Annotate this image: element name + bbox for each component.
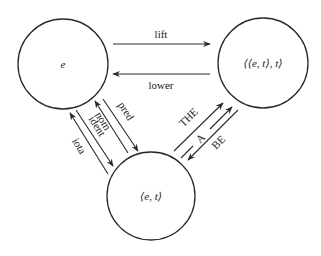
arrow-up-right-icon (210, 107, 232, 129)
node-e: e (18, 19, 108, 109)
node-e-label: e (61, 58, 66, 70)
node-gq-label: ⟨⟨e, t⟩, t⟩ (243, 57, 282, 69)
node-et: ⟨e, t⟩ (107, 152, 195, 240)
edge-pred-label: pred (116, 99, 137, 122)
edge-lift: lift (113, 28, 210, 44)
edge-lower-label: lower (148, 79, 173, 91)
node-generalized-quantifier: ⟨⟨e, t⟩, t⟩ (218, 18, 308, 108)
node-et-label: ⟨e, t⟩ (140, 190, 162, 202)
edge-the-label: THE (176, 105, 200, 129)
type-shifting-diagram: e ⟨⟨e, t⟩, t⟩ ⟨e, t⟩ lift lower iota ide… (0, 0, 321, 256)
edge-lower: lower (113, 74, 210, 91)
edge-lift-label: lift (155, 28, 168, 40)
